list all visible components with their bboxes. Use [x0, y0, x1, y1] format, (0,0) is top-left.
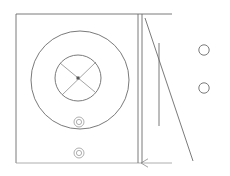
- fastener-hole-lower-inner: [76, 150, 81, 155]
- long-diagonal-line: [145, 18, 193, 161]
- fastener-hole-lower: [74, 148, 84, 158]
- fastener-hole-upper-inner: [76, 119, 81, 124]
- detail-circle-lower: [199, 83, 209, 93]
- detail-circle-upper: [199, 45, 209, 55]
- technical-drawing: [0, 0, 230, 176]
- fastener-hole-upper: [74, 117, 84, 127]
- drawing-canvas: [0, 0, 230, 176]
- spoke-hub-marker: [77, 77, 80, 80]
- rectangular-plate-outline: [16, 14, 141, 163]
